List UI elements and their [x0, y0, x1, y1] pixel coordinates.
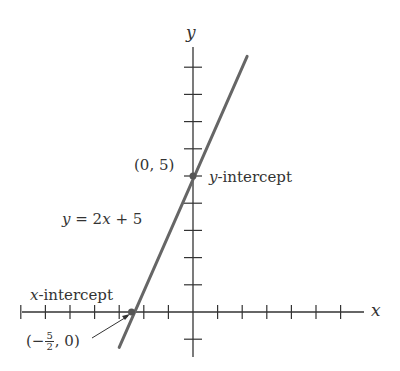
equation-label: y = 2x + 5: [62, 212, 142, 227]
graph-canvas: [0, 0, 400, 371]
x-intercept-text: -intercept: [38, 286, 113, 304]
equation-rest: + 5: [111, 210, 143, 228]
function-line: [119, 56, 247, 347]
y-intercept-label: y-intercept: [209, 170, 292, 185]
y-intercept-point: [190, 173, 197, 180]
x-intercept-open: (−: [26, 332, 44, 350]
equation-eq: = 2: [70, 210, 102, 228]
x-intercept-close: , 0): [55, 332, 80, 350]
y-axis-label: y: [186, 24, 196, 41]
x-intercept-pointer: [92, 316, 128, 338]
fraction-denominator: 2: [45, 342, 53, 352]
x-intercept-point: [128, 309, 135, 316]
axes: [22, 47, 364, 357]
y-intercept-text: -intercept: [217, 168, 292, 186]
equation-x: x: [102, 210, 110, 228]
x-axis-label: x: [371, 302, 381, 319]
y-intercept-coordinates: (0, 5): [134, 158, 174, 173]
x-intercept-label: x-intercept: [30, 288, 113, 303]
x-intercept-coordinates: (−52, 0): [26, 331, 80, 352]
fraction-five-halves: 52: [45, 331, 53, 352]
